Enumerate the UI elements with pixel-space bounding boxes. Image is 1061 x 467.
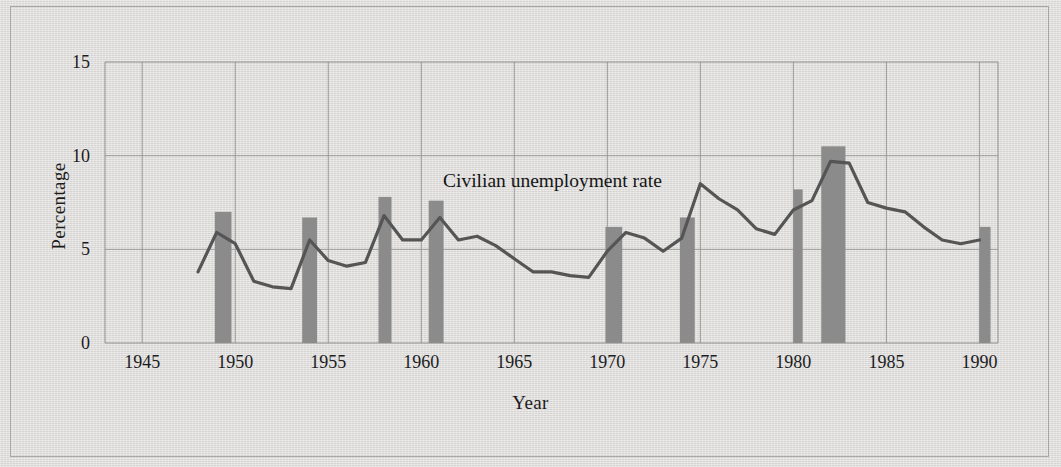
plot-frame	[105, 62, 998, 343]
x-tick-label-1950: 1950	[217, 352, 253, 373]
x-tick-label-1965: 1965	[496, 352, 532, 373]
y-tick-label-5: 5	[46, 239, 90, 260]
x-tick-label-1945: 1945	[124, 352, 160, 373]
gridlines	[105, 62, 998, 343]
x-tick-label-1955: 1955	[310, 352, 346, 373]
x-tick-label-1990: 1990	[961, 352, 997, 373]
x-tick-label-1960: 1960	[403, 352, 439, 373]
x-tick-label-1975: 1975	[682, 352, 718, 373]
x-tick-label-1970: 1970	[589, 352, 625, 373]
y-tick-label-15: 15	[46, 52, 90, 73]
x-tick-label-1980: 1980	[775, 352, 811, 373]
series-annotation-label: Civilian unemployment rate	[443, 170, 662, 192]
x-axis-title: Year	[0, 392, 1061, 414]
x-tick-label-1985: 1985	[868, 352, 904, 373]
y-tick-label-0: 0	[46, 333, 90, 354]
figure-container: Percentage Year 194519501955196019651970…	[0, 0, 1061, 467]
y-tick-label-10: 10	[46, 145, 90, 166]
